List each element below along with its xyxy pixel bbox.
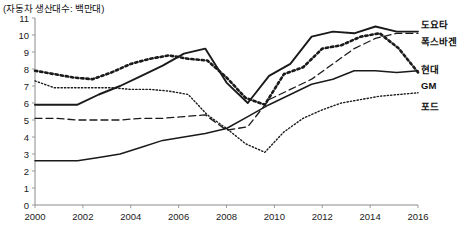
series-line-2 <box>35 71 418 161</box>
x-tick-labels: 200020022004200620082010201220142016 <box>24 205 428 222</box>
y-tick-label: 6 <box>24 98 29 109</box>
chart-plot-area: 01234567891011 2000200220042006200820102… <box>0 0 457 240</box>
y-tick-label: 7 <box>24 81 29 92</box>
x-tick-label: 2012 <box>312 211 333 222</box>
series-line-1 <box>35 33 418 104</box>
legend-label-3: GM <box>421 80 436 91</box>
legend-label-0: 도요타 <box>421 19 448 30</box>
y-tick-label: 3 <box>24 149 29 160</box>
x-tick-label: 2006 <box>168 211 189 222</box>
y-tick-label: 2 <box>24 166 29 177</box>
series-line-0 <box>35 27 418 105</box>
y-tick-label: 4 <box>24 132 29 143</box>
x-tick-label: 2010 <box>264 211 285 222</box>
legend-label-4: 포드 <box>421 101 439 112</box>
series-line-4 <box>35 81 418 152</box>
y-tick-label: 5 <box>24 115 29 126</box>
y-tick-label: 0 <box>24 200 29 211</box>
y-tick-label: 1 <box>24 183 29 194</box>
x-tick-label: 2008 <box>216 211 237 222</box>
legend-label-1: 폭스바겐 <box>421 36 457 47</box>
x-tick-label: 2016 <box>407 211 428 222</box>
chart-legend: 도요타폭스바겐현대GM포드 <box>421 19 457 112</box>
y-tick-label: 9 <box>24 47 29 58</box>
legend-label-2: 현대 <box>421 64 439 75</box>
y-tick-labels: 01234567891011 <box>18 13 35 211</box>
y-tick-label: 11 <box>19 13 29 24</box>
y-tick-label: 10 <box>18 30 29 41</box>
x-tick-label: 2004 <box>120 211 141 222</box>
x-tick-label: 2014 <box>360 211 381 222</box>
data-series-group <box>35 27 418 161</box>
x-tick-label: 2002 <box>72 211 93 222</box>
y-tick-label: 8 <box>24 64 29 75</box>
x-tick-label: 2000 <box>24 211 45 222</box>
chart-container: (자동차 생산대수: 백만대) 01234567891011 200020022… <box>0 0 457 240</box>
